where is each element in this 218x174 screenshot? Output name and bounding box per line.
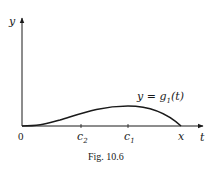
x-axis-label: t: [200, 131, 205, 144]
tick-label-c2: c2: [77, 130, 88, 145]
y-axis-label: y: [8, 15, 16, 28]
tick-label-c1: c1: [124, 130, 135, 145]
tick-label-x: x: [178, 130, 185, 143]
figure-caption: Fig. 10.6: [88, 151, 124, 162]
origin-label: 0: [18, 130, 24, 142]
curve-label: y = g1(t): [136, 90, 184, 105]
curve-g1: [22, 106, 181, 126]
figure-canvas: y t 0 c2 c1 x y = g1(t) Fig. 10.6: [0, 0, 218, 174]
